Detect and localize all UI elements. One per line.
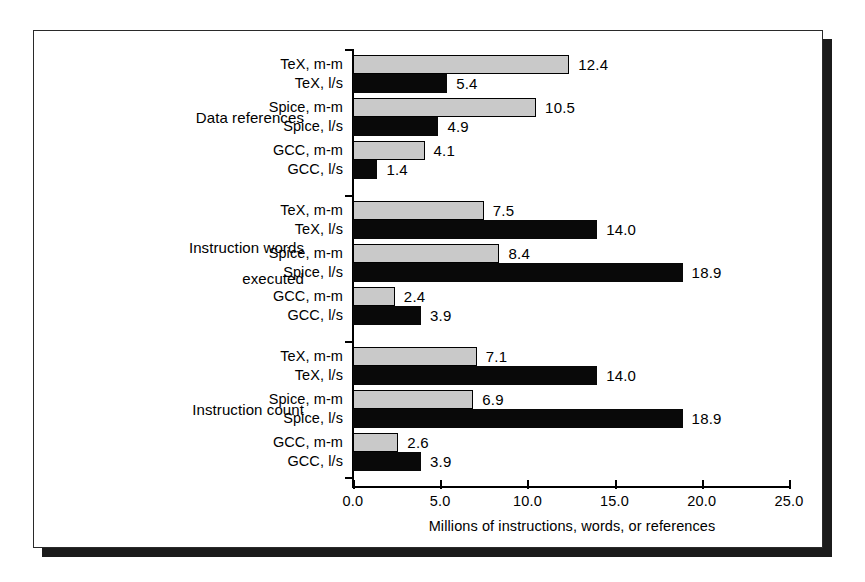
bar [353,201,484,220]
bar [353,347,477,366]
group-label-line: Instruction count [34,394,304,425]
bar-value-label: 3.9 [430,307,451,324]
x-axis-title: Millions of instructions, words, or refe… [352,518,792,534]
bar-category-label: GCC, m-m [52,142,352,158]
bar [353,55,569,74]
group-label-line: Data references [34,102,304,133]
bar-value-label: 4.1 [434,142,455,159]
bar-category-label: TeX, l/s [52,75,352,91]
bar-value-label: 18.9 [692,410,722,427]
bar [353,160,377,179]
group-label: Instruction count [34,394,304,425]
bar-category-label: TeX, m-m [52,348,352,364]
bar [353,390,473,409]
x-axis-tick-label: 25.0 [759,493,819,509]
x-axis-tick [353,480,355,489]
bar-category-label: GCC, m-m [52,434,352,450]
bar-value-label: 6.9 [482,391,503,408]
figure-frame: 12.4TeX, m-m5.4TeX, l/s10.5Spice, m-m4.9… [33,30,823,548]
bar [353,244,499,263]
group-label-line: Instruction words [34,232,304,263]
x-axis-line [352,486,789,488]
bar-value-label: 12.4 [578,56,608,73]
figure-root: 12.4TeX, m-m5.4TeX, l/s10.5Spice, m-m4.9… [0,0,865,582]
x-axis-tick-label: 15.0 [585,493,645,509]
group-label: Data references [34,102,304,133]
x-axis-tick [702,480,704,489]
group-label: Instruction wordsexecuted [34,232,304,294]
bar-value-label: 5.4 [456,75,477,92]
bar [353,74,447,93]
bar [353,366,597,385]
bar [353,220,597,239]
x-axis-tick [615,480,617,489]
bar-value-label: 18.9 [692,264,722,281]
bar-category-label: GCC, l/s [52,453,352,469]
x-axis-tick-label: 20.0 [672,493,732,509]
y-axis-group-tick [345,341,354,343]
bar-value-label: 14.0 [606,221,636,238]
x-axis-tick [789,480,791,489]
bar-category-label: GCC, l/s [52,161,352,177]
bar-value-label: 3.9 [430,453,451,470]
y-axis-group-tick [345,477,354,479]
bar-value-label: 7.5 [493,202,514,219]
bar [353,409,683,428]
x-axis-tick [527,480,529,489]
y-axis-group-tick [345,195,354,197]
bar [353,141,425,160]
bar [353,433,398,452]
bar-value-label: 14.0 [606,367,636,384]
bar [353,452,421,471]
x-axis-tick-label: 10.0 [497,493,557,509]
bar-value-label: 2.4 [404,288,425,305]
x-axis-tick [440,480,442,489]
bar-chart-plot-area: 12.4TeX, m-m5.4TeX, l/s10.5Spice, m-m4.9… [34,31,824,549]
x-axis-tick-label: 0.0 [323,493,383,509]
bar [353,306,421,325]
y-axis-group-tick [345,49,354,51]
bar [353,98,536,117]
bar-category-label: GCC, l/s [52,307,352,323]
bar-category-label: TeX, l/s [52,367,352,383]
bar [353,117,438,136]
x-axis-tick-label: 5.0 [410,493,470,509]
bar-value-label: 4.9 [447,118,468,135]
bar-category-label: TeX, m-m [52,56,352,72]
bar-value-label: 1.4 [386,161,407,178]
bar-value-label: 10.5 [545,99,575,116]
bar-value-label: 8.4 [508,245,529,262]
group-label-line: executed [34,263,304,294]
bar-category-label: TeX, m-m [52,202,352,218]
bar [353,287,395,306]
bar-value-label: 2.6 [407,434,428,451]
bar [353,263,683,282]
bar-value-label: 7.1 [486,348,507,365]
